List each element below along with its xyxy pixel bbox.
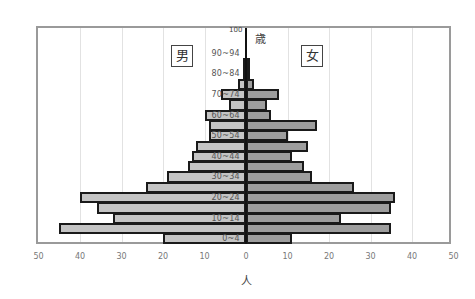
bar-male bbox=[59, 223, 246, 234]
bar-male bbox=[146, 182, 246, 193]
age-group-label: 30~34 bbox=[211, 172, 240, 181]
bar-female bbox=[246, 223, 391, 234]
y-top-label: 100 bbox=[229, 26, 242, 34]
age-group-label: 20~24 bbox=[211, 193, 240, 202]
x-tick-label: 10 bbox=[199, 252, 209, 261]
x-tick-label: 50 bbox=[448, 252, 458, 261]
x-tick-label: 10 bbox=[282, 252, 292, 261]
bar-female bbox=[246, 233, 292, 244]
age-group-label: 0~4 bbox=[222, 234, 240, 243]
y-axis-unit-label: 歳 bbox=[255, 30, 266, 46]
bar-female bbox=[246, 182, 354, 193]
bar-female bbox=[246, 99, 267, 110]
age-group-label: 60~64 bbox=[211, 111, 240, 120]
x-tick-label: 30 bbox=[365, 252, 375, 261]
x-tick-label: 40 bbox=[407, 252, 417, 261]
age-group-label: 10~14 bbox=[211, 214, 240, 223]
age-group-label: 80~84 bbox=[211, 69, 240, 78]
bar-female bbox=[246, 161, 304, 172]
bar-female bbox=[246, 141, 308, 152]
bar-female bbox=[246, 192, 395, 203]
bar-female bbox=[246, 151, 292, 162]
x-tick-label: 20 bbox=[158, 252, 168, 261]
bar-male bbox=[229, 99, 246, 110]
legend-female: 女 bbox=[301, 45, 323, 67]
gridline bbox=[80, 28, 81, 242]
x-tick-label: 0 bbox=[243, 252, 248, 261]
x-tick-label: 40 bbox=[75, 252, 85, 261]
x-tick-label: 30 bbox=[116, 252, 126, 261]
bar-male bbox=[196, 141, 246, 152]
bar-female bbox=[246, 120, 317, 131]
bar-female bbox=[246, 213, 341, 224]
age-group-label: 70~74 bbox=[211, 90, 240, 99]
x-axis-label: 人 bbox=[241, 272, 252, 288]
bar-male bbox=[209, 120, 246, 131]
x-tick-label: 20 bbox=[324, 252, 334, 261]
bar-female bbox=[246, 171, 312, 182]
center-axis bbox=[245, 28, 247, 244]
gridline bbox=[412, 28, 413, 242]
bar-female bbox=[246, 110, 271, 121]
bar-female bbox=[246, 202, 391, 213]
x-tick-label: 50 bbox=[33, 252, 43, 261]
bar-female bbox=[246, 79, 254, 90]
legend-male: 男 bbox=[171, 45, 193, 67]
bar-male bbox=[97, 202, 246, 213]
age-group-label: 40~44 bbox=[211, 152, 240, 161]
age-group-label: 90~94 bbox=[211, 49, 240, 58]
population-pyramid-chart: 0~410~1420~2430~3440~4450~5460~6470~7480… bbox=[0, 0, 475, 299]
age-group-label: 50~54 bbox=[211, 131, 240, 140]
bar-male bbox=[188, 161, 246, 172]
bar-female bbox=[246, 130, 288, 141]
bar-female bbox=[246, 89, 279, 100]
